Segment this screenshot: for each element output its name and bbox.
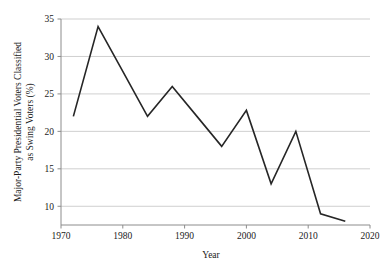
chart-figure: 101520253035 197019801990200020102020 Ye…	[0, 0, 382, 270]
x-tick-label-1980: 1980	[113, 231, 132, 241]
x-axis-title: Year	[202, 250, 220, 260]
x-tick-label-2000: 2000	[237, 231, 256, 241]
line-chart-canvas: 101520253035 197019801990200020102020 Ye…	[0, 0, 382, 270]
x-tick-label-2010: 2010	[299, 231, 318, 241]
x-tick-label-2020: 2020	[361, 231, 380, 241]
y-axis-title-line-1: Major-Party Presidential Voters Classifi…	[13, 42, 23, 202]
y-tick-label-35: 35	[45, 14, 55, 24]
chart-background	[0, 0, 382, 270]
y-tick-label-25: 25	[45, 89, 55, 99]
y-tick-label-15: 15	[45, 164, 55, 174]
y-tick-label-30: 30	[45, 52, 55, 62]
y-tick-label-10: 10	[45, 202, 55, 212]
x-tick-label-1970: 1970	[52, 231, 71, 241]
y-tick-label-20: 20	[45, 127, 55, 137]
y-axis-title-line-2: as Swing Voters (%)	[25, 83, 36, 161]
x-tick-label-1990: 1990	[175, 231, 194, 241]
